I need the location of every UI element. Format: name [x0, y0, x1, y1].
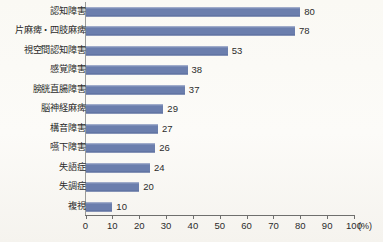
- bar-row: 膀胱直腸障害37: [0, 80, 383, 100]
- x-axis-tick: [300, 215, 301, 219]
- x-axis-tick-label: 0: [83, 221, 88, 231]
- bar: [86, 85, 185, 94]
- bar-value-label: 10: [116, 202, 127, 212]
- category-label: 構音障害: [50, 124, 86, 133]
- bar-value-label: 27: [162, 124, 173, 134]
- x-axis-tick: [273, 215, 274, 219]
- bar-row: 視空間認知障害53: [0, 41, 383, 61]
- x-axis-tick-label: 20: [134, 221, 145, 231]
- category-label: 嚥下障害: [50, 144, 86, 153]
- x-axis-tick-label: 90: [322, 221, 333, 231]
- x-axis-unit-label: (%): [358, 222, 372, 231]
- bar-row: 片麻痺・四肢麻痺78: [0, 22, 383, 42]
- bar-value-label: 53: [232, 46, 243, 56]
- bar-value-label: 78: [299, 27, 310, 37]
- bar-value-label: 37: [189, 85, 200, 95]
- category-label: 認知障害: [50, 7, 86, 16]
- x-axis-tick: [86, 215, 87, 219]
- bar: [86, 183, 140, 192]
- category-label: 片麻痺・四肢麻痺: [15, 27, 86, 36]
- category-label: 視空間認知障害: [24, 46, 86, 55]
- bar-row: 構音障害27: [0, 119, 383, 139]
- bar: [86, 163, 150, 172]
- bar: [86, 144, 156, 153]
- x-axis-tick-label: 60: [241, 221, 252, 231]
- x-axis-tick: [193, 215, 194, 219]
- x-axis-tick-label: 10: [107, 221, 118, 231]
- bar-value-label: 24: [154, 163, 165, 173]
- x-axis-tick-label: 80: [295, 221, 306, 231]
- bar-row: 失語症24: [0, 158, 383, 178]
- x-axis-tick-label: 30: [161, 221, 172, 231]
- category-label: 失語症: [59, 163, 86, 172]
- category-label: 脳神経麻痺: [41, 105, 86, 114]
- bar-chart: 認知障害80片麻痺・四肢麻痺78視空間認知障害53感覚障害38膀胱直腸障害37脳…: [0, 0, 383, 242]
- x-axis-tick-label: 70: [268, 221, 279, 231]
- x-axis-tick: [220, 215, 221, 219]
- x-axis-tick-label: 50: [214, 221, 225, 231]
- x-axis-tick: [354, 215, 355, 219]
- bar: [86, 7, 301, 16]
- bar-value-label: 29: [167, 105, 178, 115]
- bar: [86, 66, 188, 75]
- category-label: 感覚障害: [50, 66, 86, 75]
- bar: [86, 46, 228, 55]
- x-axis-tick-label: 40: [188, 221, 199, 231]
- bar: [86, 27, 295, 36]
- x-axis-tick: [112, 215, 113, 219]
- bar-value-label: 20: [143, 183, 154, 193]
- bar: [86, 105, 164, 114]
- bar-row: 認知障害80: [0, 2, 383, 22]
- bar-row: 脳神経麻痺29: [0, 100, 383, 120]
- bar-row: 感覚障害38: [0, 61, 383, 81]
- x-axis-tick: [166, 215, 167, 219]
- bar-row: 失調症20: [0, 178, 383, 198]
- bar-value-label: 26: [159, 144, 170, 154]
- bar: [86, 202, 113, 211]
- bar-row: 嚥下障害26: [0, 139, 383, 159]
- category-label: 膀胱直腸障害: [33, 85, 86, 94]
- category-label: 複視: [68, 202, 86, 211]
- category-label: 失調症: [59, 183, 86, 192]
- bar-row: 複視10: [0, 197, 383, 217]
- bar-value-label: 80: [304, 7, 315, 17]
- x-axis-tick: [247, 215, 248, 219]
- x-axis-tick: [139, 215, 140, 219]
- x-axis-tick: [327, 215, 328, 219]
- bar: [86, 124, 158, 133]
- bar-value-label: 38: [192, 66, 203, 76]
- plot-area: 認知障害80片麻痺・四肢麻痺78視空間認知障害53感覚障害38膀胱直腸障害37脳…: [0, 0, 383, 242]
